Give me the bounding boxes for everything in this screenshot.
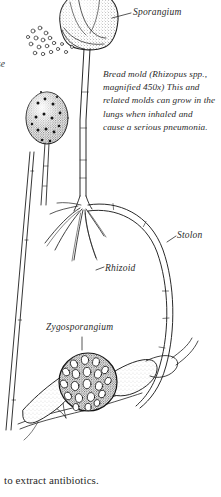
label-stolon: Stolon: [177, 231, 202, 241]
label-sporangium: Sporangium: [133, 8, 181, 18]
cutoff-edge-text: se: [0, 59, 5, 69]
left-sporangium: [26, 91, 68, 205]
body-text-line: to extract antibiotics.: [4, 474, 99, 486]
left-edge-hypha: [6, 152, 34, 430]
leader-rhizoid: [96, 267, 104, 270]
label-rhizoid: Rhizoid: [105, 264, 135, 274]
zygosporangium: [23, 338, 198, 423]
rhizoid-node: [45, 196, 106, 261]
leader-lines: [82, 13, 176, 350]
figure-caption: Bread mold (Rhizopus spp., magnified 450…: [103, 68, 216, 134]
label-zygosporangium: Zygosporangium: [46, 323, 113, 333]
leader-stolon: [167, 236, 176, 242]
